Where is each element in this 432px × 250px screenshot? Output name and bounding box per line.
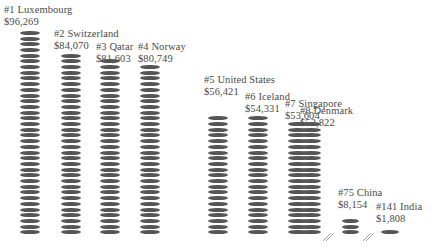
- coin-icon: [301, 196, 321, 200]
- coin-icon: [140, 65, 160, 69]
- coin-icon: [100, 122, 120, 126]
- coin-icon: [20, 202, 40, 206]
- coin-icon: [20, 48, 40, 52]
- coin-icon: [61, 213, 81, 217]
- coin-icon: [208, 139, 228, 143]
- coin-icon: [248, 230, 268, 234]
- coin-icon: [248, 122, 268, 126]
- coin-icon: [140, 219, 160, 223]
- coin-icon: [248, 208, 268, 212]
- coin-icon: [61, 122, 81, 126]
- coin-icon: [20, 168, 40, 172]
- coin-icon: [381, 230, 399, 234]
- coin-icon: [20, 179, 40, 183]
- coin-icon: [342, 225, 359, 229]
- coin-icon: [301, 168, 321, 172]
- coin-icon: [301, 202, 321, 206]
- coin-icon: [100, 59, 120, 63]
- coin-icon: [100, 111, 120, 115]
- coin-icon: [100, 139, 120, 143]
- coin-icon: [301, 213, 321, 217]
- coin-icon: [20, 116, 40, 120]
- coin-icon: [61, 162, 81, 166]
- coin-icon: [20, 208, 40, 212]
- coin-icon: [20, 99, 40, 103]
- coin-icon: [20, 94, 40, 98]
- coin-icon: [100, 190, 120, 194]
- coin-icon: [248, 151, 268, 155]
- coin-icon: [100, 65, 120, 69]
- coin-icon: [301, 190, 321, 194]
- coin-icon: [61, 99, 81, 103]
- coin-icon: [61, 133, 81, 137]
- coin-icon: [20, 213, 40, 217]
- coin-icon: [208, 213, 228, 217]
- coin-icon: [140, 105, 160, 109]
- coin-icon: [100, 225, 120, 229]
- coin-icon: [61, 128, 81, 132]
- coin-icon: [140, 94, 160, 98]
- coin-icon: [248, 139, 268, 143]
- coin-icon: [301, 133, 321, 137]
- coin-icon: [140, 190, 160, 194]
- coin-stack: [61, 0, 81, 250]
- coin-icon: [248, 213, 268, 217]
- coin-icon: [301, 162, 321, 166]
- coin-stack: [140, 0, 160, 250]
- coin-icon: [208, 230, 228, 234]
- coin-icon: [208, 145, 228, 149]
- coin-icon: [208, 202, 228, 206]
- coin-icon: [61, 173, 81, 177]
- coin-icon: [301, 122, 321, 126]
- coin-icon: [301, 139, 321, 143]
- coin-stack: [20, 0, 40, 250]
- coin-icon: [140, 82, 160, 86]
- coin-icon: [208, 179, 228, 183]
- coin-icon: [140, 225, 160, 229]
- coin-icon: [61, 151, 81, 155]
- coin-icon: [208, 190, 228, 194]
- coin-icon: [342, 230, 359, 234]
- coin-icon: [248, 133, 268, 137]
- coin-icon: [61, 219, 81, 223]
- coin-icon: [20, 111, 40, 115]
- coin-icon: [140, 151, 160, 155]
- coin-icon: [248, 168, 268, 172]
- coin-icon: [100, 156, 120, 160]
- coin-icon: [100, 99, 120, 103]
- coin-icon: [61, 94, 81, 98]
- coin-icon: [100, 196, 120, 200]
- coin-icon: [248, 225, 268, 229]
- coin-icon: [61, 76, 81, 80]
- coin-icon: [140, 230, 160, 234]
- coin-icon: [140, 116, 160, 120]
- coin-icon: [100, 168, 120, 172]
- coin-icon: [61, 196, 81, 200]
- coin-icon: [20, 151, 40, 155]
- coin-icon: [140, 202, 160, 206]
- coin-icon: [140, 139, 160, 143]
- coin-icon: [20, 173, 40, 177]
- coin-icon: [20, 219, 40, 223]
- coin-icon: [208, 128, 228, 132]
- coin-icon: [140, 71, 160, 75]
- coin-icon: [301, 156, 321, 160]
- coin-icon: [20, 54, 40, 58]
- coin-icon: [100, 145, 120, 149]
- coin-icon: [20, 65, 40, 69]
- coin-icon: [100, 76, 120, 80]
- coin-icon: [208, 168, 228, 172]
- coin-icon: [20, 76, 40, 80]
- coin-icon: [61, 116, 81, 120]
- coin-icon: [248, 173, 268, 177]
- coin-icon: [140, 162, 160, 166]
- coin-icon: [61, 65, 81, 69]
- coin-icon: [140, 173, 160, 177]
- coin-icon: [100, 94, 120, 98]
- coin-icon: [100, 185, 120, 189]
- coin-icon: [100, 133, 120, 137]
- coin-icon: [61, 190, 81, 194]
- coin-icon: [208, 219, 228, 223]
- coin-icon: [248, 145, 268, 149]
- coin-icon: [61, 88, 81, 92]
